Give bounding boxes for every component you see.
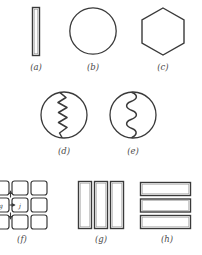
grid-cell xyxy=(12,181,28,195)
panel-label-f: (f) xyxy=(0,234,58,244)
hexagon-outline xyxy=(142,8,184,55)
panel-g: (g) xyxy=(70,178,132,250)
grid-cell xyxy=(0,215,9,229)
horizontal-bar-inner xyxy=(142,201,189,211)
shape-circle-with-wave xyxy=(102,88,164,146)
grid-cell xyxy=(31,215,47,229)
grid-cell xyxy=(12,215,28,229)
panel-label-a: (a) xyxy=(14,62,58,72)
circle-outline xyxy=(70,8,116,54)
grid-cell xyxy=(31,181,47,195)
figure-root: (a) (b) (c) (d) (e) xyxy=(0,0,202,255)
shape-hexagon xyxy=(132,4,194,62)
shape-grid-3x3: g j xyxy=(0,178,62,234)
circle-outline xyxy=(110,92,156,138)
panel-d: (d) xyxy=(33,88,95,160)
vertical-bar-inner xyxy=(96,183,106,227)
panel-label-g: (g) xyxy=(70,234,132,244)
panel-a: (a) xyxy=(14,4,58,76)
grid-annotation-g: g xyxy=(0,202,3,210)
panel-label-b: (b) xyxy=(62,62,124,72)
panel-label-h: (h) xyxy=(134,234,200,244)
panel-e: (e) xyxy=(102,88,164,160)
panel-f: g j (f) xyxy=(0,178,62,250)
panel-h: (h) xyxy=(134,178,200,250)
vertical-bar-inner xyxy=(112,183,122,227)
shape-tall-thin-rectangle xyxy=(14,4,58,62)
panel-label-e: (e) xyxy=(102,146,164,156)
panel-c: (c) xyxy=(132,4,194,76)
panel-b: (b) xyxy=(62,4,124,76)
grid-cell xyxy=(31,198,47,212)
horizontal-bar-inner xyxy=(142,184,189,194)
rectangle-inner xyxy=(34,9,38,54)
panel-label-c: (c) xyxy=(132,62,194,72)
vertical-bar-inner xyxy=(80,183,90,227)
shape-circle xyxy=(62,4,124,62)
horizontal-bar-inner xyxy=(142,217,189,227)
shape-circle-with-zigzag xyxy=(33,88,95,146)
panel-label-d: (d) xyxy=(33,146,95,156)
grid-cells xyxy=(0,181,47,229)
shape-three-horizontal-bars xyxy=(134,178,200,234)
shape-three-vertical-bars xyxy=(70,178,132,234)
grid-cell xyxy=(0,181,9,195)
